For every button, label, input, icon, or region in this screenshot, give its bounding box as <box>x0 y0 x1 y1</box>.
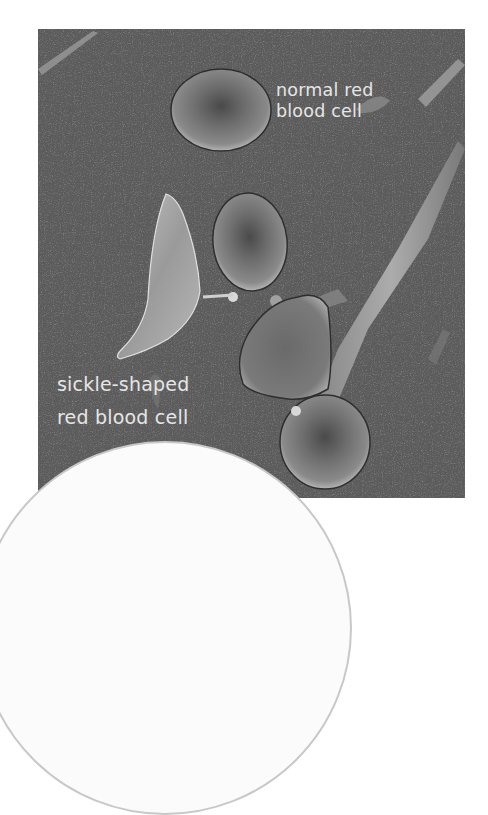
overlay-circle <box>0 441 352 815</box>
sickle-cell-label-line1: sickle-shaped <box>57 368 189 401</box>
normal-cell-label: normal red blood cell <box>276 80 374 122</box>
sickle-cell-label-line2: red blood cell <box>57 401 189 434</box>
normal-cell-label-line2: blood cell <box>276 101 374 122</box>
sickle-cell-label: sickle-shaped red blood cell <box>57 368 189 434</box>
micrograph-photo: normal red blood cell sickle-shaped red … <box>38 29 465 498</box>
normal-cell-label-line1: normal red <box>276 80 374 101</box>
